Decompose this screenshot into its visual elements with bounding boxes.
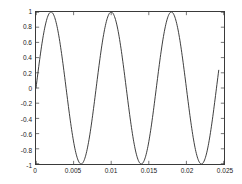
x-tick-label: 0 <box>33 167 37 175</box>
x-axis-tick-labels: 00.0050.010.0150.020.025 <box>35 167 225 177</box>
y-tick-label: 0.6 <box>23 38 32 45</box>
x-tick-label: 0.015 <box>141 167 157 175</box>
plot-area <box>35 11 225 165</box>
x-tick-label: 0.025 <box>217 167 233 175</box>
data-series-sine <box>36 12 219 164</box>
x-tick-label: 0.005 <box>65 167 81 175</box>
x-tick-label: 0.02 <box>181 167 194 175</box>
y-tick-label: 0.8 <box>23 23 32 30</box>
y-tick-label: 0 <box>28 85 32 92</box>
y-tick-label: 0.2 <box>23 69 32 76</box>
y-tick-label: 1 <box>28 8 32 15</box>
y-tick-label: -0.8 <box>21 146 32 153</box>
y-tick-label: -0.6 <box>21 131 32 138</box>
y-axis-ticks <box>36 12 224 163</box>
x-tick-label: 0.01 <box>105 167 118 175</box>
y-tick-label: -0.4 <box>21 115 32 122</box>
x-axis-ticks <box>36 12 223 164</box>
plot-svg <box>36 12 224 164</box>
y-tick-label: -1 <box>26 162 32 169</box>
y-tick-label: 0.4 <box>23 54 32 61</box>
y-axis-tick-labels: -1-0.8-0.6-0.4-0.200.20.40.60.81 <box>0 11 32 165</box>
y-tick-label: -0.2 <box>21 100 32 107</box>
figure-canvas: -1-0.8-0.6-0.4-0.200.20.40.60.81 00.0050… <box>0 0 242 184</box>
